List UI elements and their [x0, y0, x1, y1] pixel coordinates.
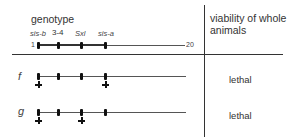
locus-label-3-4: 3-4 [52, 28, 64, 37]
row-f-viability: lethal [229, 74, 252, 85]
locus-label-sis-b: sis-b [30, 29, 46, 38]
reference-chromosome [105, 45, 185, 46]
header-divider [12, 54, 283, 55]
reference-chromosome-bold [38, 44, 106, 46]
row-g-mutation-sxl-icon [78, 117, 85, 124]
viability-header-line1: viability of whole [210, 12, 286, 24]
row-f-mutation-sis-b-icon [35, 81, 42, 88]
row-g-marker-3-4 [57, 109, 60, 116]
locus-marker-3-4 [57, 42, 60, 49]
chromosome-start-label: 1 [31, 41, 35, 48]
row-f-marker-3-4 [57, 73, 60, 80]
row-g-chromosome [38, 112, 186, 113]
row-f-marker-sis-b [37, 73, 40, 80]
row-g-marker-sxl [80, 109, 83, 116]
locus-marker-sis-b [37, 42, 40, 49]
locus-label-sxl: Sxl [75, 29, 85, 38]
locus-label-sis-a: sis-a [98, 29, 114, 38]
row-f-marker-sxl [80, 73, 83, 80]
locus-marker-sis-a [104, 42, 107, 49]
row-g-marker-sis-a [104, 109, 107, 116]
viability-header-line2: animals [210, 24, 286, 36]
row-g-marker-sis-b [37, 109, 40, 116]
viability-header: viability of whole animals [210, 12, 286, 36]
chromosome-end-label: 20 [186, 41, 194, 48]
row-f-marker-sis-a [104, 73, 107, 80]
genotype-header: genotype [31, 13, 74, 25]
locus-marker-sxl [80, 42, 83, 49]
row-g-mutation-sis-b-icon [35, 117, 42, 124]
row-label-f: f [18, 70, 21, 82]
row-f-chromosome [38, 76, 186, 77]
row-g-viability: lethal [229, 110, 252, 121]
row-f-mutation-sis-a-icon [102, 81, 109, 88]
row-label-g: g [18, 105, 24, 117]
column-divider [204, 5, 205, 137]
